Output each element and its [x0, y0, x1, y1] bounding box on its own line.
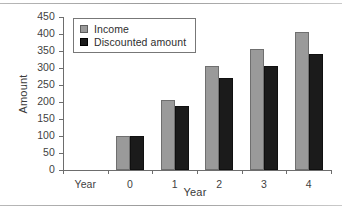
y-tick-label: 450 [13, 10, 55, 22]
x-tick-mark [108, 170, 109, 174]
figure-top-rule [0, 3, 342, 4]
bar-income-1 [161, 100, 175, 170]
discounted-swatch-icon [80, 38, 88, 46]
bar-chart-figure: Amount Year 050100150200250300350400450 … [0, 0, 342, 216]
legend-item-income: Income [80, 22, 186, 35]
x-tick-label: 3 [242, 178, 287, 190]
x-tick-label: 2 [197, 178, 242, 190]
bar-income-3 [250, 49, 264, 170]
bar-discounted-2 [219, 78, 233, 170]
y-tick-mark [59, 17, 63, 18]
bar-income-4 [295, 32, 309, 170]
y-tick-mark [59, 34, 63, 35]
x-tick-label: Year [63, 178, 108, 190]
y-tick-label: 200 [13, 95, 55, 107]
x-tick-mark [63, 170, 64, 174]
bar-discounted-4 [309, 54, 323, 170]
income-swatch-icon [80, 25, 88, 33]
y-tick-label: 400 [13, 27, 55, 39]
y-tick-label: 350 [13, 44, 55, 56]
y-tick-mark [59, 68, 63, 69]
y-tick-mark [59, 85, 63, 86]
bar-income-2 [205, 66, 219, 170]
legend-item-discounted-amount: Discounted amount [80, 35, 186, 48]
bar-income-0 [116, 136, 130, 170]
y-tick-mark [59, 51, 63, 52]
y-tick-label: 250 [13, 78, 55, 90]
y-tick-label: 50 [13, 146, 55, 158]
bar-discounted-1 [175, 106, 189, 170]
x-tick-mark [286, 170, 287, 174]
x-tick-mark [152, 170, 153, 174]
legend-label-income: Income [94, 23, 129, 35]
y-tick-label: 300 [13, 61, 55, 73]
bar-discounted-0 [130, 136, 144, 170]
y-tick-mark [59, 136, 63, 137]
x-tick-mark [331, 170, 332, 174]
x-tick-mark [242, 170, 243, 174]
bar-discounted-3 [264, 66, 278, 170]
x-tick-label: 0 [108, 178, 153, 190]
y-tick-mark [59, 153, 63, 154]
x-tick-mark [197, 170, 198, 174]
legend-label-discounted-amount: Discounted amount [94, 36, 186, 48]
y-tick-mark [59, 119, 63, 120]
x-tick-label: 1 [152, 178, 197, 190]
x-tick-label: 4 [286, 178, 331, 190]
y-tick-label: 0 [13, 163, 55, 175]
chart-legend: Income Discounted amount [73, 18, 196, 53]
y-tick-label: 100 [13, 129, 55, 141]
y-tick-label: 150 [13, 112, 55, 124]
y-tick-mark [59, 102, 63, 103]
figure-bottom-rule [0, 205, 342, 206]
